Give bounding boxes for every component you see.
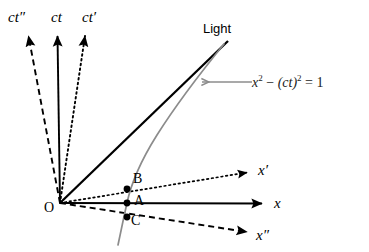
equation-value: 1 bbox=[316, 75, 323, 90]
ct-prime-axis-label: ct′ bbox=[82, 10, 97, 25]
x-double-prime-axis-line bbox=[60, 203, 247, 232]
prime-glyph: ′ bbox=[93, 9, 97, 25]
point-B-marker bbox=[124, 186, 131, 193]
x-axis-label: x bbox=[274, 196, 281, 211]
equation-ct: (ct) bbox=[278, 75, 297, 90]
origin-label: O bbox=[44, 201, 54, 215]
point-C-marker bbox=[124, 214, 131, 221]
spacetime-diagram-figure: ct″ ct ct′ x′ x x″ Light O B A C x2 − (c… bbox=[0, 0, 369, 252]
diagram-canvas bbox=[0, 0, 369, 252]
ct-double-prime-axis-line bbox=[29, 36, 61, 203]
x-double-prime-axis-label: x″ bbox=[256, 228, 269, 243]
point-A-label: A bbox=[134, 194, 144, 208]
x-prime-axis-label: x′ bbox=[258, 163, 268, 178]
point-A-marker bbox=[124, 200, 131, 207]
point-B-label: B bbox=[133, 172, 142, 186]
ct-double-prime-axis-label: ct″ bbox=[8, 10, 26, 25]
equation-equals: = bbox=[305, 75, 313, 90]
double-prime-glyph: ″ bbox=[19, 9, 26, 25]
light-worldline-label: Light bbox=[203, 22, 231, 35]
light-worldline-line bbox=[60, 41, 228, 203]
hyperbola-equation-label: x2 − (ct)2 = 1 bbox=[252, 74, 323, 90]
ct-axis-line bbox=[58, 36, 61, 203]
double-prime-glyph: ″ bbox=[263, 227, 270, 243]
equation-x-exponent: 2 bbox=[258, 73, 263, 83]
point-C-label: C bbox=[131, 214, 140, 228]
x-axis-line bbox=[60, 203, 262, 204]
equation-ct-exponent: 2 bbox=[297, 73, 302, 83]
ct-axis-label: ct bbox=[51, 10, 62, 25]
prime-glyph: ′ bbox=[265, 162, 269, 178]
equation-minus: − bbox=[266, 75, 274, 90]
ct-prime-axis-line bbox=[60, 36, 85, 203]
